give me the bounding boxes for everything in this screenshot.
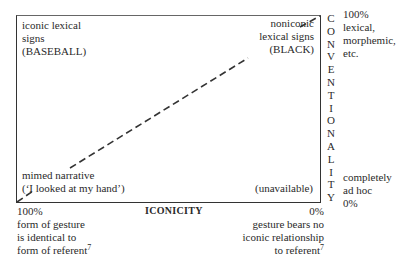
label-line: mimed narrative [22, 169, 125, 182]
label-line: (BASEBALL) [22, 45, 86, 58]
label-line: lexical signs [259, 30, 314, 43]
label-line: (unavailable) [255, 182, 313, 195]
label-line: form of referent7 [17, 244, 91, 257]
axis-letter: E [325, 63, 337, 76]
label-line: form of gesture [17, 218, 91, 231]
label-unavailable: (unavailable) [255, 182, 313, 195]
label-line: noniconic [259, 17, 314, 30]
footnote-marker: 7 [320, 243, 324, 252]
axis-letter: L [325, 153, 337, 166]
footnote-marker: 7 [87, 243, 91, 252]
axis-letter: Y [325, 191, 337, 204]
label-line: iconic lexical [22, 19, 86, 32]
axis-letter: I [325, 166, 337, 179]
axis-letter: T [325, 89, 337, 102]
axis-letter: C [325, 12, 337, 25]
label-line: iconic relationship [242, 231, 324, 244]
axis-letter: O [325, 25, 337, 38]
label-line: 100% [343, 8, 396, 21]
label-line: lexical, [343, 21, 396, 34]
label-line: gesture bears no [242, 218, 324, 231]
x-axis-label-iconicity: ICONICITY [145, 205, 203, 216]
label-line: etc. [343, 47, 396, 60]
label-line: morphemic, [343, 34, 396, 47]
axis-letter: N [325, 76, 337, 89]
axis-letter: I [325, 102, 337, 115]
y-axis-label-conventionality: C O N V E N T I O N A L I T Y [325, 12, 337, 204]
label-mimed-narrative: mimed narrative (‘I looked at my hand’) [22, 169, 125, 195]
axis-letter: A [325, 140, 337, 153]
label-line: completely [343, 171, 392, 184]
label-line: 0% [242, 205, 324, 218]
label-line: (BLACK) [259, 43, 314, 56]
axis-letter: N [325, 38, 337, 51]
label-iconic-lexical-signs: iconic lexical signs (BASEBALL) [22, 19, 86, 58]
y-axis-bottom-annotation: completely ad hoc 0% [343, 171, 392, 210]
label-text: to referent [275, 244, 321, 256]
x-axis-right-annotation: 0% gesture bears no iconic relationship … [242, 205, 324, 257]
axis-letter: N [325, 127, 337, 140]
label-noniconic-lexical-signs: noniconic lexical signs (BLACK) [259, 17, 314, 56]
axis-letter: V [325, 50, 337, 63]
label-text: form of referent [17, 244, 87, 256]
y-axis-top-annotation: 100% lexical, morphemic, etc. [343, 8, 396, 60]
label-line: ad hoc [343, 184, 392, 197]
label-line: signs [22, 32, 86, 45]
label-line: 100% [17, 205, 91, 218]
label-line: (‘I looked at my hand’) [22, 182, 125, 195]
axis-letter: O [325, 114, 337, 127]
label-line: to referent7 [242, 244, 324, 257]
label-line: is identical to [17, 231, 91, 244]
axis-letter: T [325, 178, 337, 191]
x-axis-left-annotation: 100% form of gesture is identical to for… [17, 205, 91, 257]
label-line: 0% [343, 197, 392, 210]
